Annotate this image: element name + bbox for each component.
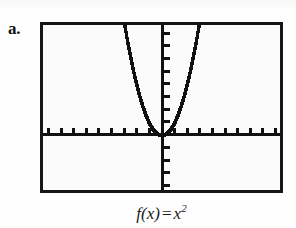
caption-base: x xyxy=(174,204,182,223)
caption-exponent: 2 xyxy=(181,202,187,214)
parabola-graph-svg xyxy=(43,25,280,190)
graph-axes xyxy=(43,25,280,190)
y-axis-ticks xyxy=(164,32,170,187)
caption-equals: = xyxy=(160,204,174,223)
graph-frame xyxy=(40,22,283,193)
graph-plot-area xyxy=(43,25,280,190)
figure-caption: f(x)=x2 xyxy=(40,198,283,224)
item-label: a. xyxy=(8,20,20,37)
y-axis-line xyxy=(161,25,164,190)
scan-artifact xyxy=(0,0,296,10)
figure-page: a. f(x)=x2 xyxy=(0,0,296,228)
